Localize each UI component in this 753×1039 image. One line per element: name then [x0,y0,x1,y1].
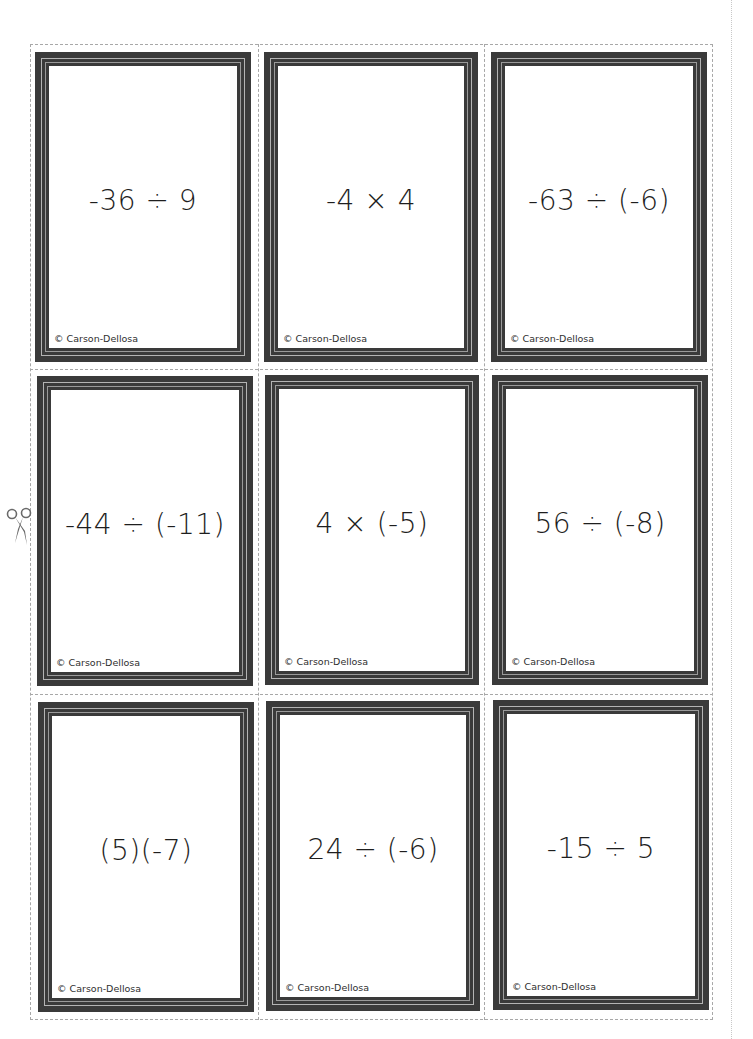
card-copyright: © Carson-Dellosa [512,981,596,992]
card-expression: -36 ÷ 9 [49,184,237,217]
flash-card: -63 ÷ (-6) © Carson-Dellosa [491,52,707,362]
card-expression: 24 ÷ (-6) [280,833,466,866]
card-copyright: © Carson-Dellosa [283,333,367,344]
flash-card: -36 ÷ 9 © Carson-Dellosa [35,52,251,362]
flash-card: -44 ÷ (-11) © Carson-Dellosa [37,376,253,686]
flash-card: (5)(-7) © Carson-Dellosa [38,702,254,1012]
card-expression: -15 ÷ 5 [507,832,695,865]
card-copyright: © Carson-Dellosa [510,333,594,344]
scissors-icon [5,507,33,547]
flash-card: 56 ÷ (-8) © Carson-Dellosa [492,375,708,685]
flash-card: -15 ÷ 5 © Carson-Dellosa [493,700,709,1010]
card-expression: (5)(-7) [52,834,240,867]
cut-line-horizontal-2 [30,694,713,695]
card-copyright: © Carson-Dellosa [54,333,138,344]
card-copyright: © Carson-Dellosa [511,656,595,667]
card-copyright: © Carson-Dellosa [284,656,368,667]
flash-card-sheet: -36 ÷ 9 © Carson-Dellosa -4 × 4 © Carson… [0,0,753,1039]
cut-line-vertical-2 [484,44,485,1020]
cut-line-horizontal-1 [30,369,713,370]
flash-card: -4 × 4 © Carson-Dellosa [264,52,478,362]
cut-line-vertical-1 [258,44,259,1020]
card-copyright: © Carson-Dellosa [57,983,141,994]
card-expression: -63 ÷ (-6) [505,184,693,217]
flash-card: 24 ÷ (-6) © Carson-Dellosa [266,701,480,1011]
card-expression: 4 × (-5) [279,507,465,540]
card-copyright: © Carson-Dellosa [56,657,140,668]
card-expression: 56 ÷ (-8) [506,507,694,540]
card-expression: -44 ÷ (-11) [51,508,239,541]
page-edge-guide-line [731,0,732,1039]
flash-card: 4 × (-5) © Carson-Dellosa [265,375,479,685]
card-expression: -4 × 4 [278,184,464,217]
card-copyright: © Carson-Dellosa [285,982,369,993]
